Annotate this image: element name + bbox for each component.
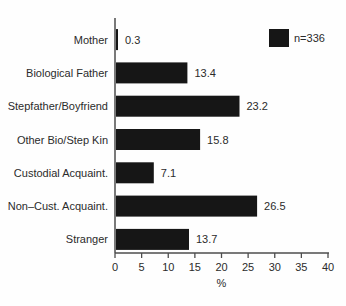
bar-value-label: 26.5 [264, 200, 285, 212]
bar [116, 162, 154, 183]
bar-value-label: 13.4 [194, 67, 215, 79]
bar [116, 196, 257, 217]
bar-value-label: 0.3 [125, 34, 140, 46]
bar-chart-figure: Mother0.3Biological Father13.4Stepfather… [0, 0, 346, 306]
bar [116, 62, 187, 83]
x-axis-title: % [217, 277, 227, 289]
x-tick-label: 30 [269, 261, 281, 273]
category-label: Custodial Acquaint. [14, 167, 108, 179]
bar-value-label: 15.8 [207, 134, 228, 146]
x-tick-label: 15 [189, 261, 201, 273]
x-tick-label: 40 [322, 261, 334, 273]
x-tick-label: 35 [295, 261, 307, 273]
x-tick-label: 0 [112, 261, 118, 273]
legend-swatch [269, 29, 289, 47]
bar-value-label: 23.2 [247, 100, 268, 112]
category-label: Stranger [66, 233, 109, 245]
category-label: Mother [74, 34, 109, 46]
category-label: Stepfather/Boyfriend [8, 100, 108, 112]
bar [116, 96, 240, 117]
bar-value-label: 7.1 [161, 167, 176, 179]
bar-value-label: 13.7 [196, 233, 217, 245]
bar [116, 229, 189, 250]
category-label: Other Bio/Step Kin [17, 134, 108, 146]
bar [116, 129, 200, 150]
bar-chart: Mother0.3Biological Father13.4Stepfather… [0, 0, 346, 306]
category-label: Biological Father [26, 67, 108, 79]
legend-label: n=336 [294, 32, 325, 44]
x-tick-label: 5 [139, 261, 145, 273]
x-tick-label: 25 [242, 261, 254, 273]
category-label: Non–Cust. Acquaint. [8, 200, 108, 212]
bar [116, 29, 118, 50]
x-tick-label: 10 [162, 261, 174, 273]
x-tick-label: 20 [215, 261, 227, 273]
